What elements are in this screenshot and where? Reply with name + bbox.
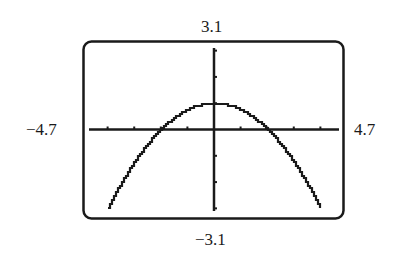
axes: [89, 48, 339, 211]
graph-screen: [0, 0, 399, 264]
